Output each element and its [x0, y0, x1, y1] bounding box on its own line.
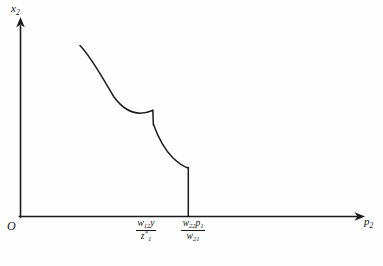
jump-discontinuity-1 — [153, 110, 154, 125]
y-axis-label: x2 — [11, 3, 20, 14]
fraction-1-num-y: y — [150, 218, 154, 228]
fraction-2-num-p-sub: 1 — [200, 222, 203, 229]
x-tick-label-w12y-over-z1star: w12y z*1 — [120, 219, 172, 241]
demand-curve-figure: x2 p2 O w12y z*1 w22p1 w21 — [0, 0, 383, 266]
y-axis-label-sub: 2 — [16, 8, 20, 17]
x-tick-label-w22p1-over-w21: w22p1 w21 — [166, 219, 220, 241]
fraction-1-den-z: z — [141, 231, 145, 241]
x-axis-label-main: p — [364, 215, 370, 227]
demand-branch-1 — [80, 46, 153, 114]
fraction-1-denominator: z*1 — [136, 231, 157, 242]
x-axis-label: p2 — [364, 216, 373, 227]
fraction-2-numerator: w22p1 — [181, 219, 206, 231]
fraction-1: w12y z*1 — [136, 219, 157, 241]
fraction-2-den-sub: 21 — [193, 235, 199, 242]
origin-label: O — [7, 220, 16, 232]
fraction-1-den-sub: 1 — [148, 235, 151, 242]
x-axis-label-sub: 2 — [370, 221, 374, 230]
demand-branch-2 — [154, 125, 189, 169]
fraction-2: w22p1 w21 — [181, 219, 206, 241]
fraction-2-den-w: w — [187, 231, 193, 241]
fraction-2-num-sub: 22 — [189, 222, 195, 229]
fraction-2-denominator: w21 — [181, 231, 206, 242]
fraction-1-num-w: w — [138, 218, 144, 228]
